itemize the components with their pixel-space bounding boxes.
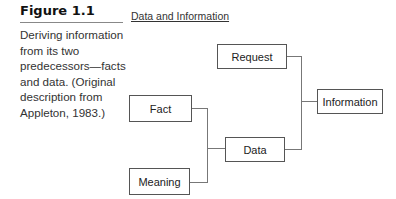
connector-data-h (285, 149, 301, 150)
connector-request-h (287, 56, 301, 57)
connector-right-v (301, 56, 302, 150)
figure-caption: Deriving information from its two predec… (20, 27, 130, 121)
connector-to-information-h (301, 101, 317, 102)
connector-to-data-h (207, 148, 225, 149)
figure-rule (20, 22, 123, 23)
diagram-title: Data and Information (131, 10, 229, 22)
node-request: Request (217, 44, 287, 69)
figure-label: Figure 1.1 (20, 3, 95, 18)
node-fact: Fact (129, 95, 192, 122)
connector-left-v (207, 108, 208, 183)
connector-meaning-h (190, 182, 207, 183)
node-data: Data (225, 137, 285, 162)
node-information: Information (317, 89, 383, 114)
connector-fact-h (192, 108, 207, 109)
node-meaning: Meaning (129, 168, 190, 195)
